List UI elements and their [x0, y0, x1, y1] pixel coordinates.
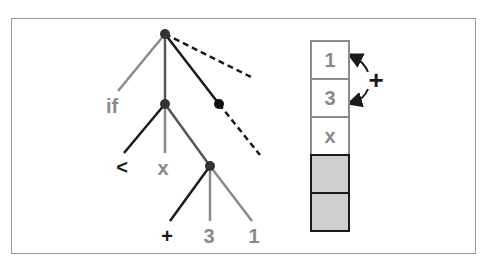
tree-node-root — [160, 29, 170, 39]
stack-cell-empty — [310, 154, 350, 194]
tree-diagram — [0, 0, 489, 266]
tree-edge — [170, 166, 210, 221]
tree-edge — [118, 34, 165, 91]
tree-label: if — [106, 96, 118, 116]
tree-edge — [124, 104, 165, 153]
tree-label: 3 — [203, 226, 214, 246]
tree-node-right — [214, 99, 224, 109]
tree-edges — [118, 34, 260, 221]
tree-label: 1 — [248, 226, 259, 246]
swap-arrow-down-icon — [354, 89, 368, 102]
tree-node-mid — [160, 99, 170, 109]
swap-arrow-up-icon — [354, 57, 368, 72]
stack-cell: 1 — [310, 40, 350, 80]
stack-cell: 3 — [310, 78, 350, 118]
tree-edge — [165, 104, 210, 166]
stack-cell: x — [310, 116, 350, 156]
tree-node-sub — [205, 161, 215, 171]
plus-operator-icon: + — [368, 65, 383, 96]
tree-edge — [165, 34, 219, 104]
dashed-edge — [165, 34, 251, 77]
tree-label: x — [157, 158, 168, 178]
tree-label: + — [161, 226, 173, 246]
stack: 13x — [310, 40, 350, 232]
tree-label: < — [116, 157, 128, 177]
stack-cell-empty — [310, 192, 350, 232]
tree-edge — [210, 166, 252, 221]
dashed-edge — [219, 104, 260, 155]
